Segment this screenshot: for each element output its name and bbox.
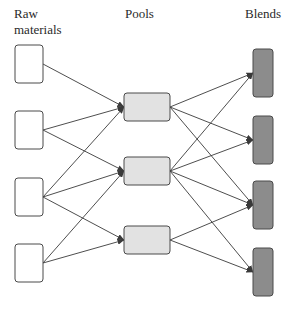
arrow-p3-to-b3 [170,205,253,240]
blending-network-diagram [0,0,291,310]
blend-box-b4 [253,248,273,296]
arrow-p2-to-b3 [170,171,253,205]
blend-box-b2 [253,116,273,164]
pool-box-p1 [124,93,170,121]
arrow-r3-to-p3 [43,197,124,240]
arrow-p1-to-b1 [170,73,253,107]
arrow-p1-to-b2 [170,107,253,140]
arrow-p2-to-b4 [170,171,253,272]
pool-box-p2 [124,157,170,185]
arrow-r1-to-p1 [43,64,124,107]
blend-box-b3 [253,181,273,229]
raw-material-box-r2 [15,111,43,149]
arrow-r2-to-p1 [43,107,124,130]
raw-material-box-r1 [15,45,43,83]
raw-material-box-r3 [15,178,43,216]
raw-material-box-r4 [15,244,43,282]
pool-box-p3 [124,226,170,254]
arrow-r4-to-p2 [43,171,124,263]
arrow-p2-to-b2 [170,140,253,171]
arrow-r3-to-p1 [43,107,124,197]
arrow-r4-to-p3 [43,240,124,263]
blend-box-b1 [253,49,273,97]
arrow-p3-to-b4 [170,240,253,272]
nodes-layer [15,45,273,296]
arrow-r2-to-p2 [43,130,124,171]
